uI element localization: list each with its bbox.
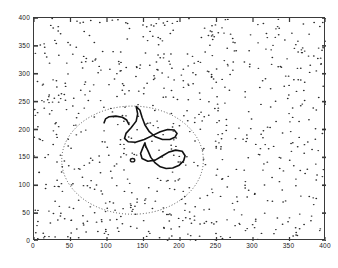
x-tick-label: 300	[246, 242, 257, 249]
x-tick-label: 250	[210, 242, 221, 249]
y-tick-label: 150	[4, 153, 30, 160]
contour-loop-lower	[141, 143, 186, 169]
x-tick-label: 150	[137, 242, 148, 249]
y-tick-label: 350	[4, 41, 30, 48]
annotation-shapes	[62, 106, 204, 214]
center-marker	[130, 158, 134, 161]
plot-frame	[33, 17, 325, 240]
y-tick-label: 50	[4, 209, 30, 216]
y-tick-label: 200	[4, 125, 30, 132]
figure: 050100150200250300350400 050100150200250…	[0, 0, 338, 268]
x-tick-label: 50	[66, 242, 74, 249]
x-tick-label: 200	[173, 242, 184, 249]
y-tick-label: 0	[4, 237, 30, 244]
axis-ticks	[34, 18, 326, 241]
y-tick-label: 400	[4, 14, 30, 21]
dotted-circle	[62, 106, 204, 214]
x-tick-label: 100	[100, 242, 111, 249]
x-tick-label: 0	[31, 242, 35, 249]
x-tick-label: 350	[283, 242, 294, 249]
y-tick-label: 250	[4, 97, 30, 104]
x-tick-label: 400	[319, 242, 330, 249]
contour-arc-left	[104, 116, 129, 124]
scatter-points	[34, 18, 326, 241]
plot-canvas	[34, 18, 326, 241]
y-tick-label: 100	[4, 181, 30, 188]
y-tick-label: 300	[4, 69, 30, 76]
contour-loop-upper	[125, 107, 178, 143]
